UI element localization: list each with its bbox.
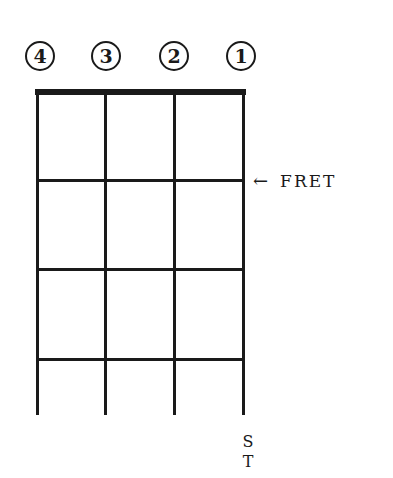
fret-annotation: ← FRET — [253, 170, 336, 191]
nut — [35, 89, 246, 95]
fret-line-3 — [36, 358, 245, 361]
string-line-1 — [242, 89, 245, 415]
string-line-3 — [104, 89, 107, 415]
string-number-3: 3 — [91, 41, 121, 71]
left-arrow-icon: ← — [253, 170, 270, 191]
bottom-label-t: T — [238, 452, 258, 472]
fret-line-2 — [36, 268, 245, 271]
fret-line-1 — [36, 179, 245, 182]
bottom-label: S T — [238, 432, 258, 472]
bottom-label-s: S — [238, 432, 258, 452]
fret-label-text: FRET — [280, 171, 336, 191]
string-line-2 — [173, 89, 176, 415]
string-number-2: 2 — [159, 41, 189, 71]
string-line-4 — [36, 89, 39, 415]
string-number-1: 1 — [226, 41, 256, 71]
string-number-4: 4 — [25, 41, 55, 71]
